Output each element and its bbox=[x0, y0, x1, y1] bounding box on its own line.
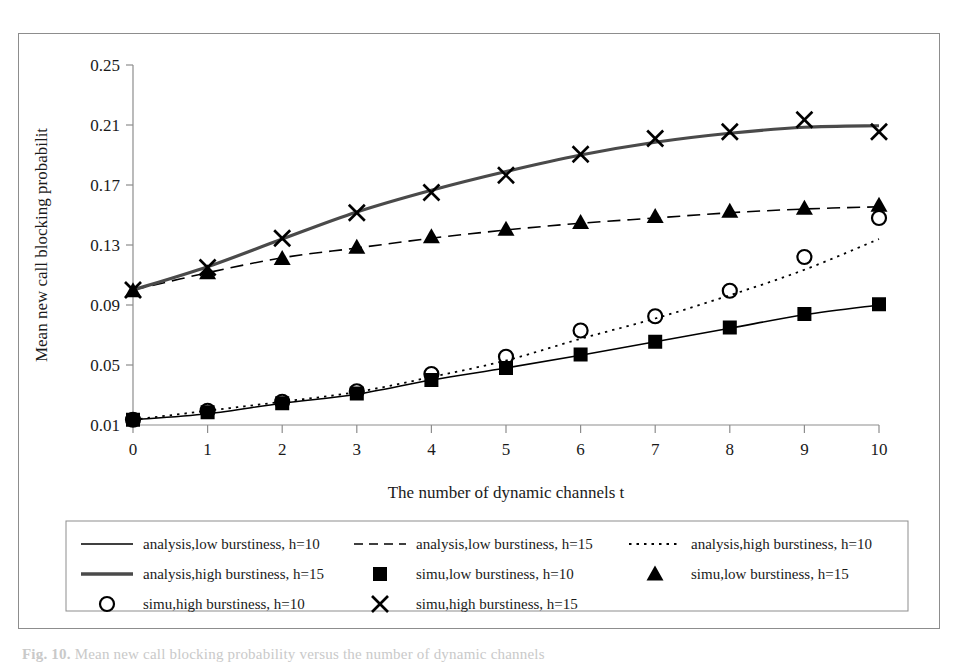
chart-series-layer bbox=[125, 112, 888, 427]
legend-key-circle bbox=[100, 597, 114, 611]
x-tick-label: 0 bbox=[129, 440, 138, 459]
marker-square bbox=[797, 307, 811, 321]
marker-circle bbox=[723, 284, 737, 298]
chart-series bbox=[133, 126, 879, 290]
x-tick-label: 9 bbox=[800, 440, 809, 459]
y-axis-tick-labels: 0.010.050.090.130.170.210.25 bbox=[90, 56, 120, 435]
marker-circle bbox=[574, 324, 588, 338]
y-tick-label: 0.01 bbox=[90, 416, 120, 435]
legend-key-triangle bbox=[647, 566, 664, 581]
legend-label: analysis,high burstiness, h=10 bbox=[691, 536, 872, 552]
y-tick-label: 0.21 bbox=[90, 116, 120, 135]
series-line bbox=[133, 239, 879, 420]
chart-series bbox=[125, 197, 888, 298]
marker-triangle bbox=[647, 566, 664, 581]
marker-triangle bbox=[274, 250, 291, 265]
marker-cross bbox=[647, 131, 663, 147]
figure-frame: 0.010.050.090.130.170.210.25 01234567891… bbox=[18, 33, 940, 629]
y-tick-label: 0.09 bbox=[90, 296, 120, 315]
y-tick-label: 0.17 bbox=[90, 176, 120, 195]
y-axis-title: Mean new call blocking probabilit bbox=[32, 128, 51, 362]
x-tick-label: 7 bbox=[651, 440, 660, 459]
legend-label: simu,low burstiness, h=10 bbox=[416, 566, 574, 582]
x-tick-label: 6 bbox=[576, 440, 585, 459]
legend-key-square bbox=[373, 567, 387, 581]
chart-plot-area: 0.010.050.090.130.170.210.25 01234567891… bbox=[19, 34, 941, 630]
marker-triangle bbox=[647, 208, 664, 223]
marker-square bbox=[723, 321, 737, 335]
x-tick-label: 2 bbox=[278, 440, 287, 459]
chart-series bbox=[125, 112, 887, 298]
x-tick-label: 8 bbox=[726, 440, 735, 459]
x-tick-label: 1 bbox=[203, 440, 212, 459]
chart-series bbox=[133, 207, 879, 290]
legend-label: analysis,low burstiness, h=10 bbox=[143, 536, 320, 552]
marker-square bbox=[373, 567, 387, 581]
marker-triangle bbox=[721, 203, 738, 218]
x-tick-label: 5 bbox=[502, 440, 511, 459]
y-tick-label: 0.13 bbox=[90, 236, 120, 255]
chart-legend: analysis,low burstiness, h=10analysis,lo… bbox=[66, 521, 908, 612]
y-tick-label: 0.25 bbox=[90, 56, 120, 75]
legend-label: simu,high burstiness, h=10 bbox=[143, 596, 305, 612]
y-tick-label: 0.05 bbox=[90, 356, 120, 375]
x-axis-title: The number of dynamic channels t bbox=[388, 483, 625, 502]
marker-square bbox=[872, 297, 886, 311]
marker-cross bbox=[372, 596, 388, 612]
caption-label: Fig. 10. bbox=[22, 646, 71, 662]
chart-series bbox=[126, 297, 886, 427]
y-axis-ticks bbox=[126, 65, 133, 425]
marker-triangle bbox=[871, 197, 888, 212]
legend-label: simu,low burstiness, h=15 bbox=[691, 566, 849, 582]
marker-triangle bbox=[572, 214, 589, 229]
x-axis-tick-labels: 012345678910 bbox=[129, 440, 888, 459]
legend-label: simu,high burstiness, h=15 bbox=[416, 596, 578, 612]
marker-cross bbox=[796, 112, 812, 128]
legend-key-cross bbox=[372, 596, 388, 612]
x-tick-label: 4 bbox=[427, 440, 436, 459]
marker-circle bbox=[797, 250, 811, 264]
legend-label: analysis,low burstiness, h=15 bbox=[416, 536, 593, 552]
marker-triangle bbox=[796, 200, 813, 215]
figure-caption: Fig. 10. Mean new call blocking probabil… bbox=[22, 646, 545, 663]
marker-cross bbox=[498, 167, 514, 183]
legend-label: analysis,high burstiness, h=15 bbox=[143, 566, 324, 582]
marker-circle bbox=[648, 309, 662, 323]
chart-series bbox=[126, 211, 886, 427]
marker-circle bbox=[100, 597, 114, 611]
marker-square bbox=[648, 335, 662, 349]
marker-triangle bbox=[348, 239, 365, 254]
chart-series bbox=[133, 239, 879, 420]
series-line bbox=[133, 207, 879, 290]
chart-svg: 0.010.050.090.130.170.210.25 01234567891… bbox=[19, 34, 941, 630]
marker-triangle bbox=[423, 228, 440, 243]
marker-circle bbox=[872, 211, 886, 225]
series-line bbox=[133, 126, 879, 290]
marker-square bbox=[574, 348, 588, 362]
caption-text: Mean new call blocking probability versu… bbox=[75, 646, 545, 662]
marker-triangle bbox=[498, 221, 515, 236]
x-tick-label: 10 bbox=[871, 440, 888, 459]
x-tick-label: 3 bbox=[353, 440, 362, 459]
x-axis-ticks bbox=[133, 425, 879, 433]
